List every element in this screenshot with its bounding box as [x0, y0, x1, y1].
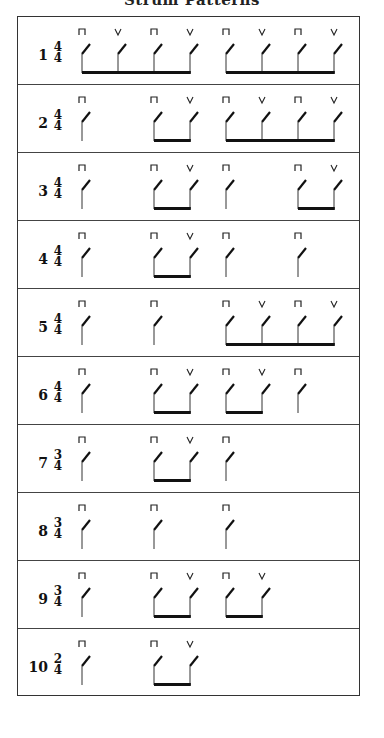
down-bow-icon [79, 301, 85, 307]
strum-slash-icon [226, 112, 234, 122]
strum-slash-icon [82, 520, 90, 530]
down-bow-icon [295, 165, 301, 171]
strum-slash-icon [118, 44, 126, 54]
note-beam [154, 479, 191, 482]
strum-down [151, 29, 162, 73]
strum-slash-icon [226, 180, 234, 190]
strum-down [79, 437, 90, 481]
note-beam [226, 411, 263, 414]
strum-slash-icon [226, 316, 234, 326]
strum-up [187, 233, 198, 277]
down-bow-icon [151, 233, 157, 239]
strum-down [223, 369, 234, 413]
strum-down [79, 165, 90, 209]
strum-up [187, 437, 198, 481]
down-bow-icon [79, 369, 85, 375]
strum-down [151, 641, 162, 685]
strum-notation [18, 493, 361, 561]
strum-slash-icon [154, 452, 162, 462]
strum-up [187, 641, 198, 685]
strum-up [259, 369, 270, 413]
strum-up [259, 29, 270, 73]
down-bow-icon [295, 301, 301, 307]
down-bow-icon [79, 97, 85, 103]
strum-up [187, 29, 198, 73]
note-beam [154, 615, 191, 618]
down-bow-icon [151, 301, 157, 307]
pattern-row-5: 5 4 4 [18, 289, 359, 357]
strum-down [151, 505, 162, 549]
strum-down [79, 233, 90, 277]
up-bow-icon [115, 29, 121, 35]
note-beam [154, 207, 191, 210]
strum-up [259, 301, 270, 345]
down-bow-icon [151, 29, 157, 35]
strum-down [79, 505, 90, 549]
strum-down [295, 369, 306, 413]
down-bow-icon [151, 505, 157, 511]
strum-pattern-table: 1 4 4 2 4 4 3 4 4 4 4 4 5 4 4 [17, 16, 360, 696]
strum-down [223, 505, 234, 549]
up-bow-icon [187, 437, 193, 443]
pattern-row-9: 9 3 4 [18, 561, 359, 629]
strum-slash-icon [190, 452, 198, 462]
up-bow-icon [187, 641, 193, 647]
down-bow-icon [151, 437, 157, 443]
up-bow-icon [259, 369, 265, 375]
strum-down [151, 97, 162, 141]
down-bow-icon [79, 233, 85, 239]
down-bow-icon [295, 233, 301, 239]
strum-slash-icon [190, 112, 198, 122]
down-bow-icon [295, 29, 301, 35]
up-bow-icon [259, 29, 265, 35]
strum-down [223, 29, 234, 73]
strum-slash-icon [298, 316, 306, 326]
down-bow-icon [151, 97, 157, 103]
strum-slash-icon [154, 180, 162, 190]
down-bow-icon [223, 437, 229, 443]
strum-slash-icon [190, 44, 198, 54]
down-bow-icon [151, 165, 157, 171]
pattern-row-7: 7 3 4 [18, 425, 359, 493]
strum-slash-icon [82, 452, 90, 462]
strum-slash-icon [154, 248, 162, 258]
strum-down [223, 165, 234, 209]
strum-notation [18, 221, 361, 289]
strum-down [151, 437, 162, 481]
strum-down [79, 301, 90, 345]
strum-slash-icon [82, 44, 90, 54]
pattern-row-8: 8 3 4 [18, 493, 359, 561]
down-bow-icon [223, 233, 229, 239]
down-bow-icon [79, 573, 85, 579]
strum-up [115, 29, 126, 73]
strum-slash-icon [82, 384, 90, 394]
strum-slash-icon [298, 112, 306, 122]
note-beam [226, 71, 335, 74]
strum-notation [18, 629, 361, 697]
strum-notation [18, 17, 361, 85]
strum-slash-icon [298, 384, 306, 394]
down-bow-icon [295, 97, 301, 103]
strum-slash-icon [154, 384, 162, 394]
strum-down [79, 573, 90, 617]
strum-down [223, 97, 234, 141]
down-bow-icon [79, 641, 85, 647]
note-beam [226, 139, 335, 142]
up-bow-icon [259, 301, 265, 307]
strum-down [295, 165, 306, 209]
strum-slash-icon [82, 248, 90, 258]
strum-down [295, 233, 306, 277]
strum-down [295, 97, 306, 141]
down-bow-icon [223, 301, 229, 307]
strum-notation [18, 153, 361, 221]
strum-down [223, 573, 234, 617]
strum-slash-icon [298, 180, 306, 190]
strum-slash-icon [190, 588, 198, 598]
strum-slash-icon [154, 112, 162, 122]
strum-slash-icon [82, 112, 90, 122]
strum-down [151, 165, 162, 209]
down-bow-icon [223, 165, 229, 171]
note-beam [154, 411, 191, 414]
strum-slash-icon [154, 316, 162, 326]
up-bow-icon [187, 369, 193, 375]
